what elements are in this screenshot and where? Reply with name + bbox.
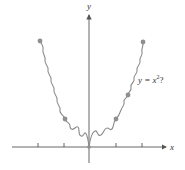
x-axis-label: x bbox=[169, 142, 174, 152]
y-axis-label: y bbox=[86, 1, 91, 11]
point-right-top bbox=[141, 40, 146, 45]
curve-label-suffix: ? bbox=[160, 75, 164, 85]
point-right-upper bbox=[126, 93, 131, 98]
curve-label-lhs: y = x bbox=[137, 75, 157, 85]
data-points bbox=[38, 39, 146, 149]
point-origin bbox=[87, 145, 91, 149]
curve-label: y = x2? bbox=[137, 74, 164, 85]
point-left-mid bbox=[63, 117, 68, 122]
parabola-diagram: y x y = x2? bbox=[0, 0, 185, 170]
point-left-top bbox=[38, 39, 43, 44]
point-right-mid bbox=[114, 117, 119, 122]
